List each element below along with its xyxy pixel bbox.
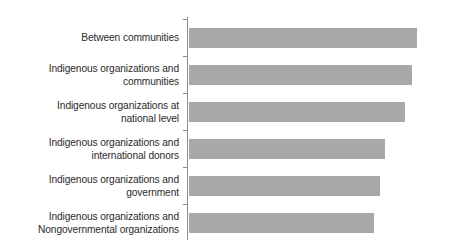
category-label-line: national level <box>121 112 179 125</box>
chart-row: Indigenous organizations and communities <box>0 56 462 93</box>
axis-tick <box>183 167 188 168</box>
axis-tick <box>183 93 188 94</box>
axis-tick <box>183 204 188 205</box>
category-label: Indigenous organizations and internation… <box>0 130 179 167</box>
axis-tick <box>183 130 188 131</box>
plot-area: Between communities Indigenous organizat… <box>0 0 462 240</box>
category-label: Indigenous organizations and Nongovernme… <box>0 204 179 240</box>
category-label-line: Nongovernmental organizations <box>38 223 179 236</box>
category-label: Between communities <box>0 19 179 56</box>
bar <box>189 213 374 233</box>
category-label-line: Indigenous organizations and <box>49 62 179 75</box>
category-label-line: Indigenous organizations and <box>49 210 179 223</box>
chart-row: Indigenous organizations at national lev… <box>0 93 462 130</box>
category-label-line: Indigenous organizations and <box>49 173 179 186</box>
bar <box>189 65 412 85</box>
category-label-line: Between communities <box>81 31 179 44</box>
category-label: Indigenous organizations at national lev… <box>0 93 179 130</box>
bar <box>189 176 380 196</box>
bar-track <box>189 139 451 159</box>
category-label-line: government <box>126 186 179 199</box>
bar-track <box>189 28 451 48</box>
horizontal-bar-chart: Between communities Indigenous organizat… <box>0 0 462 240</box>
chart-row: Indigenous organizations and Nongovernme… <box>0 204 462 240</box>
chart-row: Indigenous organizations and internation… <box>0 130 462 167</box>
category-label-line: Indigenous organizations and <box>49 136 179 149</box>
chart-row: Between communities <box>0 19 462 56</box>
bar-track <box>189 213 451 233</box>
bar-track <box>189 65 451 85</box>
bar-track <box>189 102 451 122</box>
bar <box>189 102 405 122</box>
axis-tick <box>183 56 188 57</box>
bar-track <box>189 176 451 196</box>
category-label-line: communities <box>123 75 179 88</box>
category-label: Indigenous organizations and government <box>0 167 179 204</box>
category-label-line: Indigenous organizations at <box>57 99 179 112</box>
chart-row: Indigenous organizations and government <box>0 167 462 204</box>
category-label-line: international donors <box>92 149 179 162</box>
bar <box>189 28 417 48</box>
bar <box>189 139 385 159</box>
category-label: Indigenous organizations and communities <box>0 56 179 93</box>
axis-tick <box>183 19 188 20</box>
